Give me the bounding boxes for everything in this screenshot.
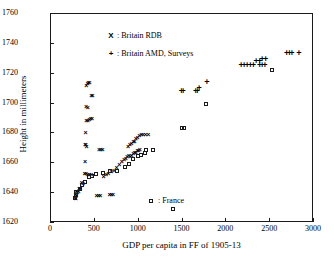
legend-separator: : (158, 196, 160, 205)
data-point-france (101, 171, 105, 175)
legend-label-britain-rdb: Britain RDB (121, 31, 162, 40)
y-tick-label: 1620 (0, 218, 18, 226)
data-point-france (151, 148, 155, 152)
y-tick-label: 1680 (0, 128, 18, 136)
data-point-france (83, 180, 87, 184)
legend-label-france: France (162, 196, 184, 205)
legend-separator: : (117, 49, 119, 58)
x-tick-label: 500 (74, 225, 114, 233)
data-point-france (78, 187, 82, 191)
y-tick-mark (50, 73, 54, 74)
y-tick-mark (50, 13, 54, 14)
x-tick-mark (94, 218, 95, 222)
x-tick-label: 2500 (249, 225, 289, 233)
x-axis-title: GDP per capita in FF of 1905-13 (50, 240, 313, 250)
data-point-france (182, 126, 186, 130)
x-tick-mark (269, 218, 270, 222)
y-tick-label: 1760 (0, 9, 18, 17)
y-tick-label: 1700 (0, 99, 18, 107)
y-tick-mark (50, 162, 54, 163)
legend-label-britain-amd: Britain AMD, Surveys (121, 49, 193, 58)
y-tick-mark (50, 192, 54, 193)
x-tick-label: 0 (30, 225, 70, 233)
data-point-france (94, 172, 98, 176)
legend-separator: : (117, 31, 119, 40)
data-point-france (144, 148, 148, 152)
y-tick-mark (50, 43, 54, 44)
data-point-france (204, 102, 208, 106)
x-tick-mark (225, 218, 226, 222)
x-tick-label: 1500 (162, 225, 202, 233)
legend-item-britain-amd: +: Britain AMD, Surveys (105, 49, 193, 58)
square-marker-icon (149, 199, 153, 203)
data-point-france (127, 162, 131, 166)
data-point-france (108, 169, 112, 173)
y-tick-label: 1660 (0, 158, 18, 166)
x-tick-mark (138, 218, 139, 222)
x-tick-mark (182, 218, 183, 222)
legend-item-france: : France (158, 196, 184, 205)
x-tick-mark (313, 218, 314, 222)
x-tick-label: 1000 (118, 225, 158, 233)
y-tick-mark (50, 222, 54, 223)
data-point-france (270, 68, 274, 72)
y-tick-label: 1740 (0, 39, 18, 47)
y-tick-mark (50, 132, 54, 133)
legend-item-britain-rdb: X: Britain RDB (105, 31, 162, 40)
x-tick-label: 3000 (293, 225, 333, 233)
x-tick-label: 2000 (205, 225, 245, 233)
data-point-france (171, 207, 175, 211)
plus-marker-icon: + (105, 49, 117, 58)
plot-area (50, 13, 313, 222)
data-point-france (115, 169, 119, 173)
y-tick-label: 1640 (0, 188, 18, 196)
y-tick-mark (50, 103, 54, 104)
x-marker-icon: X (105, 31, 117, 40)
scatter-chart-figure: 16201640166016801700172017401760 0500100… (0, 0, 334, 259)
y-tick-label: 1720 (0, 69, 18, 77)
x-tick-mark (50, 218, 51, 222)
y-axis-title: Height in millimeters (18, 39, 28, 189)
